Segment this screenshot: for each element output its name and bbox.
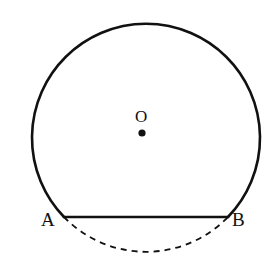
- geometry-figure: A B O: [0, 0, 278, 259]
- center-point-dot: [138, 129, 145, 136]
- point-label-a: A: [41, 210, 55, 229]
- minor-arc-dashed-path: [64, 217, 228, 252]
- center-label-o: O: [135, 108, 147, 125]
- point-label-b: B: [232, 210, 245, 229]
